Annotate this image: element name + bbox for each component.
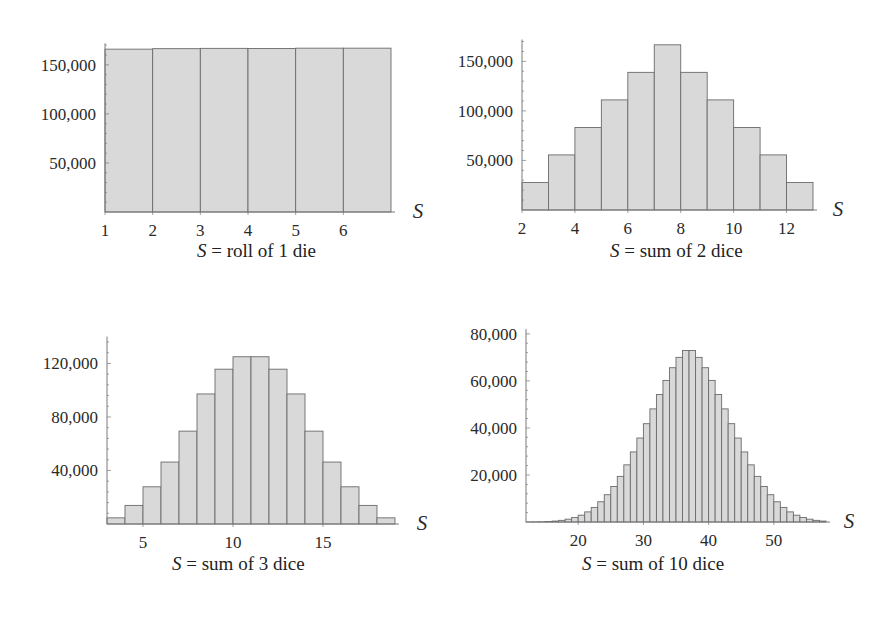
bar (709, 380, 716, 522)
y-tick-label: 20,000 (470, 466, 517, 485)
bar (650, 409, 657, 522)
bar (654, 45, 680, 210)
caption-var: S (582, 553, 592, 574)
x-tick-label: 40 (700, 531, 717, 550)
bar (696, 357, 703, 522)
bar (598, 502, 605, 522)
y-tick-label: 60,000 (470, 372, 517, 391)
bar (780, 507, 787, 522)
bar (663, 380, 670, 522)
y-tick-label: 80,000 (470, 325, 517, 344)
bar (522, 182, 548, 210)
bar (604, 495, 611, 522)
bar (767, 495, 774, 522)
bar (153, 49, 201, 212)
bar (800, 518, 807, 522)
bar (296, 48, 344, 212)
caption-var: S (610, 240, 620, 261)
bar (702, 368, 709, 522)
caption-var: S (197, 240, 207, 261)
bar (197, 394, 215, 524)
bars (522, 45, 813, 210)
x-tick-label: 1 (101, 221, 110, 240)
bar (161, 462, 179, 524)
bar (215, 369, 233, 524)
caption-text: = sum of 2 dice (620, 240, 743, 261)
bar (787, 512, 794, 522)
bar (575, 127, 601, 210)
histogram-sum-2-dice: 50,000100,000150,00024681012S (458, 40, 844, 238)
bars (107, 357, 395, 524)
bar (774, 502, 781, 522)
bar (722, 409, 729, 522)
caption-text: = sum of 3 dice (182, 553, 305, 574)
x-tick-label: 15 (315, 533, 332, 552)
x-tick-label: 10 (725, 219, 742, 238)
bar (728, 424, 735, 522)
y-tick-label: 100,000 (458, 102, 513, 121)
histogram-sum-10-dice: 20,00040,00060,00080,00020304050S (470, 325, 855, 550)
x-axis-label: S (844, 509, 855, 533)
bar (707, 100, 733, 210)
caption-1-die: S = roll of 1 die (197, 240, 316, 262)
x-axis-label: S (417, 511, 428, 535)
caption-text: = roll of 1 die (207, 240, 316, 261)
bar (359, 505, 377, 524)
x-tick-label: 5 (291, 221, 300, 240)
bar (143, 487, 161, 524)
bar (548, 155, 574, 210)
caption-2-dice: S = sum of 2 dice (610, 240, 743, 262)
bar (676, 357, 683, 522)
bar (578, 515, 585, 522)
bar (269, 369, 287, 524)
x-tick-label: 12 (778, 219, 795, 238)
bar (741, 452, 748, 522)
bar (637, 438, 644, 522)
histogram-sum-3-dice: 40,00080,000120,00051015S (43, 337, 428, 552)
bar (748, 465, 755, 522)
bar (760, 155, 786, 210)
x-tick-label: 4 (571, 219, 580, 238)
bar (611, 486, 618, 522)
x-tick-label: 20 (570, 531, 587, 550)
bar (572, 518, 579, 522)
bar (734, 127, 760, 210)
bar (761, 486, 768, 522)
bar (125, 505, 143, 524)
bar (669, 368, 676, 522)
x-tick-label: 2 (518, 219, 527, 238)
y-tick-label: 100,000 (41, 105, 96, 124)
y-tick-label: 40,000 (470, 419, 517, 438)
bar (233, 357, 251, 524)
x-tick-label: 30 (635, 531, 652, 550)
bar (251, 357, 269, 524)
x-tick-label: 2 (148, 221, 157, 240)
bar (107, 518, 125, 524)
bar (689, 351, 696, 522)
bar (305, 431, 323, 524)
bars (105, 48, 391, 212)
bar (323, 462, 341, 524)
bar (630, 452, 637, 522)
bar (179, 431, 197, 524)
x-tick-label: 4 (244, 221, 253, 240)
y-tick-label: 120,000 (43, 354, 98, 373)
bar (105, 49, 153, 212)
bar (735, 438, 742, 522)
x-axis-label: S (833, 197, 844, 221)
bar (643, 424, 650, 522)
histogram-roll-1-die: 50,000100,000150,000123456S (41, 43, 424, 240)
bar (200, 48, 248, 212)
bar (591, 507, 598, 522)
y-tick-label: 50,000 (466, 151, 513, 170)
bar (754, 476, 761, 522)
y-tick-label: 150,000 (458, 52, 513, 71)
x-tick-label: 3 (196, 221, 205, 240)
bar (377, 518, 395, 524)
bar (617, 476, 624, 522)
y-tick-label: 40,000 (51, 461, 98, 480)
bar (624, 465, 631, 522)
x-tick-label: 50 (765, 531, 782, 550)
bar (681, 72, 707, 210)
bar (628, 72, 654, 210)
